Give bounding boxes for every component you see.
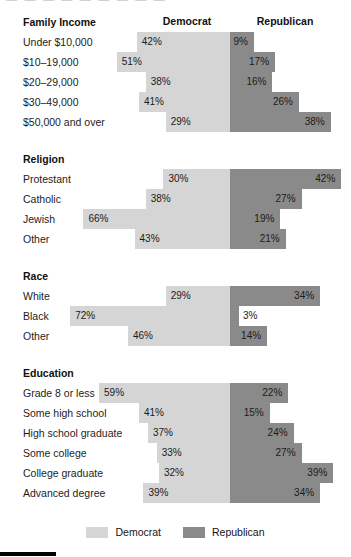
bar-democrat: 39% — [143, 483, 230, 503]
section-spacer — [0, 503, 351, 512]
row-label: Other — [23, 229, 49, 249]
chart-row: 51%17%$10–19,000 — [0, 52, 351, 72]
bar-value-republican: 19% — [254, 209, 274, 229]
row-label: Grade 8 or less — [23, 383, 95, 403]
bar-value-republican: 27% — [276, 189, 296, 209]
bar-republican: 34% — [230, 483, 320, 503]
section-title: Race — [0, 267, 351, 286]
bar-republican: 39% — [230, 463, 333, 483]
chart-row: 32%39%College graduate — [0, 463, 351, 483]
bar-republican: 21% — [230, 229, 286, 249]
bar-republican: 24% — [230, 423, 294, 443]
bar-value-democrat: 41% — [144, 403, 164, 423]
bar-value-democrat: 66% — [88, 209, 108, 229]
bar-republican: 15% — [230, 403, 270, 423]
bar-democrat: 38% — [146, 72, 230, 92]
bar-value-republican: 24% — [268, 423, 288, 443]
bar-value-democrat: 72% — [75, 306, 95, 326]
bar-value-democrat: 38% — [151, 189, 171, 209]
chart-row: 30%42%Protestant — [0, 169, 351, 189]
bar-democrat: 43% — [135, 229, 230, 249]
bar-value-democrat: 29% — [171, 112, 191, 132]
bar-value-democrat: 33% — [162, 443, 182, 463]
row-bars: 72%3% — [0, 306, 351, 326]
bar-value-republican: 3% — [243, 306, 257, 326]
bar-value-democrat: 38% — [151, 72, 171, 92]
row-label: Other — [23, 326, 49, 346]
chart-section: Family Income42%9%Under $10,00051%17%$10… — [0, 32, 351, 132]
bar-democrat: 29% — [166, 112, 230, 132]
section-title: Religion — [0, 150, 351, 169]
bar-value-republican: 42% — [315, 169, 335, 189]
row-label: Advanced degree — [23, 483, 105, 503]
row-label: Some college — [23, 443, 87, 463]
bar-republican: 27% — [230, 443, 302, 463]
section-title: Family Income — [0, 13, 96, 32]
bar-value-republican: 21% — [260, 229, 280, 249]
bar-value-democrat: 37% — [153, 423, 173, 443]
bar-republican: 17% — [230, 52, 275, 72]
bar-value-democrat: 42% — [142, 32, 162, 52]
bar-democrat: 38% — [146, 189, 230, 209]
bar-democrat: 72% — [70, 306, 230, 326]
bar-republican: 34% — [230, 286, 320, 306]
legend-swatch-democrat-icon — [86, 527, 108, 538]
row-label: Catholic — [23, 189, 61, 209]
row-label: College graduate — [23, 463, 103, 483]
chart-row: 66%19%Jewish — [0, 209, 351, 229]
bar-value-democrat: 41% — [144, 92, 164, 112]
row-bars: 46%14% — [0, 326, 351, 346]
row-label: $50,000 and over — [23, 112, 105, 132]
bar-value-republican: 26% — [273, 92, 293, 112]
bar-value-democrat: 39% — [148, 483, 168, 503]
bar-democrat: 46% — [128, 326, 230, 346]
chart-row: 29%34%White — [0, 286, 351, 306]
row-label: Jewish — [23, 209, 55, 229]
chart-row: 29%38%$50,000 and over — [0, 112, 351, 132]
row-label: $30–49,000 — [23, 92, 78, 112]
bar-democrat: 37% — [148, 423, 230, 443]
bar-value-democrat: 43% — [140, 229, 160, 249]
chart-row: 38%16%$20–29,000 — [0, 72, 351, 92]
bar-democrat: 33% — [157, 443, 230, 463]
bar-democrat: 30% — [163, 169, 230, 189]
bar-republican: 38% — [230, 112, 331, 132]
chart-row: 72%3%Black — [0, 306, 351, 326]
chart-section: Race29%34%White72%3%Black46%14%Other — [0, 267, 351, 346]
bar-republican: 9% — [230, 32, 254, 52]
page-top-clipped-text: — — — — — — — — — — [0, 0, 351, 12]
bar-value-democrat: 51% — [122, 52, 142, 72]
chart-row: 43%21%Other — [0, 229, 351, 249]
row-label: $20–29,000 — [23, 72, 78, 92]
chart-row: 46%14%Other — [0, 326, 351, 346]
row-label: Black — [23, 306, 49, 326]
bar-democrat: 51% — [117, 52, 230, 72]
bar-value-democrat: 32% — [164, 463, 184, 483]
diverging-bar-chart: Democrat Republican Family Income42%9%Un… — [0, 12, 351, 512]
section-spacer — [0, 132, 351, 150]
bar-value-republican: 16% — [246, 72, 266, 92]
bar-republican: 14% — [230, 326, 267, 346]
chart-row: 37%24%High school graduate — [0, 423, 351, 443]
bar-republican: 27% — [230, 189, 302, 209]
chart-row: 41%26%$30–49,000 — [0, 92, 351, 112]
section-spacer — [0, 346, 351, 364]
bar-value-republican: 14% — [241, 326, 261, 346]
bar-democrat: 59% — [99, 383, 230, 403]
column-header-republican: Republican — [257, 15, 314, 27]
bar-republican: 42% — [230, 169, 341, 189]
chart-row: 39%34%Advanced degree — [0, 483, 351, 503]
bottom-rule — [0, 552, 56, 556]
bar-democrat: 66% — [83, 209, 230, 229]
chart-row: 59%22%Grade 8 or less — [0, 383, 351, 403]
row-label: Under $10,000 — [23, 32, 92, 52]
bar-value-republican: 39% — [307, 463, 327, 483]
chart-sections: Family Income42%9%Under $10,00051%17%$10… — [0, 32, 351, 512]
row-bars: 29%34% — [0, 286, 351, 306]
bar-value-republican: 9% — [233, 32, 247, 52]
row-label: High school graduate — [23, 423, 122, 443]
chart-section: Religion30%42%Protestant38%27%Catholic66… — [0, 150, 351, 249]
legend-label-democrat: Democrat — [115, 526, 161, 538]
bar-republican: 16% — [230, 72, 272, 92]
legend-item-republican: Republican — [183, 526, 265, 538]
